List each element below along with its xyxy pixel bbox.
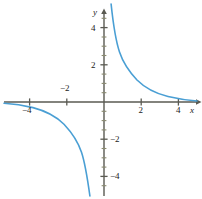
x-tick-label-neg-2: −2 [60, 84, 70, 93]
y-axis-label: y [93, 8, 97, 17]
x-tick-label-pos-4: 4 [176, 106, 181, 115]
y-tick-label-pos-2: 2 [91, 61, 96, 70]
x-tick-label-pos-2: 2 [139, 106, 144, 115]
graph-figure: −4 −2 2 4 4 2 −2 −4 y x [0, 0, 202, 199]
curve-branch-positive [111, 4, 197, 101]
x-tick-label-neg-4: −4 [22, 106, 32, 115]
hyperbola-plot [0, 0, 202, 199]
x-axis-arrow-icon [196, 99, 202, 105]
x-axis-label: x [190, 106, 194, 115]
y-tick-label-neg-4: −4 [110, 172, 120, 181]
y-tick-label-pos-4: 4 [91, 24, 96, 33]
y-axis-arrow-icon [101, 9, 107, 15]
curve-branch-negative [4, 103, 90, 196]
y-tick-label-neg-2: −2 [110, 135, 120, 144]
